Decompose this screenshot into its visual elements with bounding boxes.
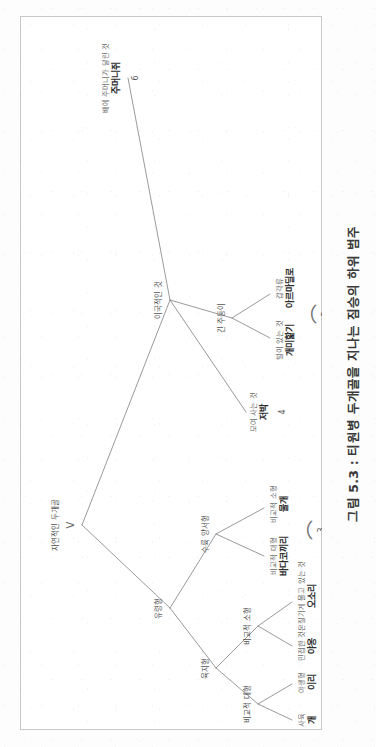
group-brace-1: ︵ — [320, 691, 322, 711]
tree-edges — [20, 16, 322, 730]
node-small-land: 비교적 소형 — [244, 607, 253, 644]
leaf-badger-qualifier: 몬질기게 물고 있는 것 — [298, 561, 306, 631]
group-brace-3: ︵ — [294, 520, 314, 540]
leaf-armadillo: 갑각류 아르마딜로 — [276, 268, 296, 308]
leaf-pouched-qualifier: 배에 주머니가 달린 것 — [102, 43, 110, 113]
leaf-anteater-name: 개미핥기 — [285, 320, 295, 360]
leaf-seal-qualifier: 비교적 소형 — [270, 485, 278, 522]
leaf-anteater: 털이 있는 것 개미핥기 — [276, 320, 296, 360]
leaf-dog: 사육 개 — [298, 713, 318, 727]
scan-page: V 자연적인 두개골 유령형 육지형 수륙 양서형 비교적 대형 비교 — [0, 0, 376, 747]
tree-canvas: V 자연적인 두개골 유령형 육지형 수륙 양서형 비교적 대형 비교 — [20, 16, 322, 730]
figure-canvas-wrapper: V 자연적인 두개골 유령형 육지형 수륙 양서형 비교적 대형 비교 — [20, 16, 322, 730]
leaf-dog-name: 개 — [307, 713, 317, 727]
leaf-wolf: 야생형 이리 — [298, 672, 318, 693]
figure-caption-text: 그림 5.3 : 티원병 두개골을 지나는 짐승의 하위 범주 — [343, 225, 362, 521]
group-number-6: 6 — [131, 75, 140, 80]
group-number-5: 5 — [321, 311, 323, 316]
root-marker: V — [65, 522, 76, 529]
node-root: 자연적인 두개골 — [52, 499, 61, 550]
leaf-bat: 모여 사는 것 저박 — [250, 392, 270, 432]
leaf-armadillo-qualifier: 갑각류 — [276, 268, 284, 308]
node-amphibian-label: 수륙 양서형 — [202, 515, 211, 552]
leaf-pouched: 배에 주머니가 달린 것 주머니쥐 — [102, 43, 122, 113]
leaf-wolf-qualifier: 야생형 — [298, 672, 306, 693]
leaf-walrus: 비교적 대형 바다코끼리 — [270, 536, 290, 576]
leaf-walrus-name: 바다코끼리 — [279, 536, 289, 576]
node-long-snout-label: 긴 주둥이 — [218, 303, 227, 333]
node-large-land: 비교적 대형 — [244, 685, 253, 722]
node-large-land-label: 비교적 대형 — [244, 685, 253, 722]
node-amphibian: 수륙 양서형 — [202, 515, 211, 552]
leaf-cat-qualifier: 민첩한 것 — [298, 631, 306, 661]
leaf-walrus-qualifier: 비교적 대형 — [270, 536, 278, 576]
node-exotic: 이국적인 것 — [155, 281, 164, 318]
node-ghost: 유령형 — [155, 598, 164, 619]
node-land: 육지형 — [202, 658, 211, 679]
leaf-badger: 몬질기게 물고 있는 것 오소리 — [298, 561, 318, 631]
group-number-3: 3 — [317, 527, 323, 532]
leaf-bat-qualifier: 모여 사는 것 — [250, 392, 258, 432]
leaf-cat-name: 야옹 — [307, 631, 317, 661]
leaf-wolf-name: 이리 — [307, 672, 317, 693]
node-root-label: 자연적인 두개골 — [52, 499, 61, 550]
leaf-bat-name: 저박 — [259, 392, 269, 432]
leaf-badger-name: 오소리 — [307, 561, 317, 631]
leaf-armadillo-name: 아르마딜로 — [285, 268, 295, 308]
leaf-cat: 민첩한 것 야옹 — [298, 631, 318, 661]
leaf-dog-qualifier: 사육 — [298, 713, 306, 727]
leaf-seal-name: 물개 — [279, 485, 289, 522]
group-number-4: 4 — [278, 409, 287, 414]
node-small-land-label: 비교적 소형 — [244, 607, 253, 644]
leaf-anteater-qualifier: 털이 있는 것 — [276, 320, 284, 360]
node-ghost-label: 유령형 — [155, 598, 164, 619]
node-land-label: 육지형 — [202, 658, 211, 679]
figure-caption: 그림 5.3 : 티원병 두개골을 지나는 짐승의 하위 범주 — [330, 0, 374, 747]
node-exotic-label: 이국적인 것 — [155, 281, 164, 318]
group-brace-2: ︵ — [320, 611, 322, 631]
node-long-snout: 긴 주둥이 — [218, 303, 227, 333]
leaf-seal: 비교적 소형 물개 — [270, 485, 290, 522]
leaf-pouched-name: 주머니쥐 — [111, 43, 121, 113]
group-brace-5: ︵ — [298, 304, 318, 324]
